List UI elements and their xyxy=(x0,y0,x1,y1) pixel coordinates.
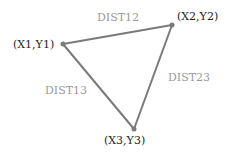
edges xyxy=(63,25,172,129)
edge-p1-p2 xyxy=(63,25,172,44)
edge-label-dist12: DIST12 xyxy=(97,11,139,24)
diagram-svg: (X1,Y1) (X2,Y2) (X3,Y3) DIST12 DIST23 DI… xyxy=(0,0,235,153)
vertex-p3-dot xyxy=(132,127,137,132)
vertex-dots xyxy=(61,23,175,132)
vertex-p2-dot xyxy=(170,23,175,28)
edge-label-dist13: DIST13 xyxy=(45,84,87,97)
edge-p2-p3 xyxy=(134,25,172,129)
vertex-p1-dot xyxy=(61,42,66,47)
triangle-diagram: (X1,Y1) (X2,Y2) (X3,Y3) DIST12 DIST23 DI… xyxy=(0,0,235,153)
vertex-p2-label: (X2,Y2) xyxy=(177,10,218,23)
vertex-p1-label: (X1,Y1) xyxy=(13,38,54,51)
edge-label-dist23: DIST23 xyxy=(168,71,210,84)
vertex-p3-label: (X3,Y3) xyxy=(104,134,145,147)
